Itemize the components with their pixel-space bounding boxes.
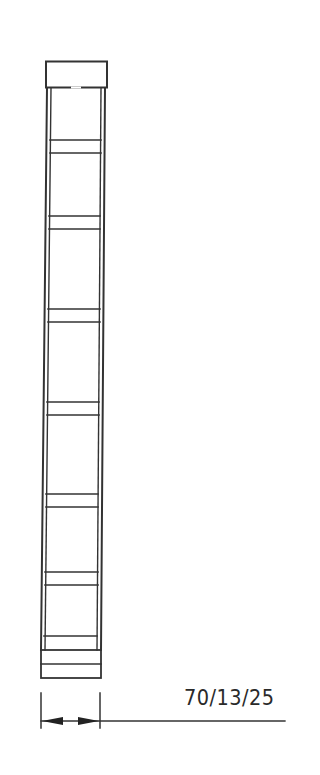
arrow-left-icon (42, 717, 63, 725)
left-side-panel (41, 88, 51, 650)
top-cap (46, 62, 107, 88)
bookcase-drawing (0, 0, 320, 775)
right-side-panel (97, 88, 105, 650)
plinth (41, 650, 101, 678)
shelves (44, 140, 101, 636)
arrow-right-icon (78, 717, 99, 725)
dimension-label: 70/13/25 (184, 686, 274, 710)
